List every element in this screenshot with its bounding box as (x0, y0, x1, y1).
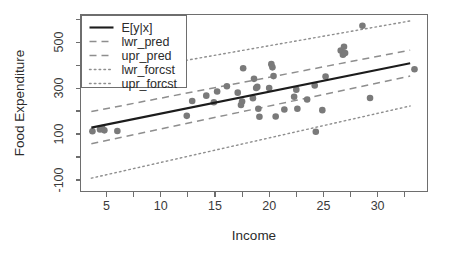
legend-label-lwr_pred: lwr_pred (122, 35, 170, 49)
regression-chart: -100100300500 51015202530 Food Expenditu… (0, 0, 449, 254)
data-point (294, 105, 301, 112)
x-axis: 51015202530 (103, 192, 405, 213)
y-tick-label: 300 (52, 78, 66, 99)
data-point (319, 107, 326, 114)
y-axis-title: Food Expenditure (12, 50, 27, 157)
data-point (214, 88, 221, 95)
data-point (359, 22, 366, 29)
data-point (251, 76, 258, 83)
data-point (189, 98, 196, 105)
data-point (341, 43, 348, 50)
data-point (281, 106, 288, 113)
data-point (255, 105, 262, 112)
x-tick-label: 30 (371, 199, 385, 213)
data-point (203, 92, 210, 99)
x-tick-label: 15 (208, 199, 222, 213)
y-axis: -100100300500 (52, 19, 80, 192)
data-point (254, 84, 261, 91)
x-tick-label: 10 (154, 199, 168, 213)
data-point (114, 128, 121, 135)
legend-label-Eyx: E[y|x] (122, 21, 153, 35)
data-point (269, 64, 276, 71)
y-tick-label: -100 (52, 167, 66, 192)
data-point (234, 89, 241, 96)
data-point (224, 83, 231, 90)
data-point (342, 50, 349, 57)
data-point (304, 96, 311, 103)
legend-label-upr_forcst: upr_forcst (122, 77, 178, 91)
y-tick-label: 100 (52, 124, 66, 145)
legend-label-lwr_forcst: lwr_forcst (122, 63, 176, 77)
data-point (239, 98, 246, 105)
series-line-lwr_forcst (91, 106, 410, 178)
data-point (270, 73, 277, 80)
chart-legend: E[y|x]lwr_predupr_predlwr_forcstupr_forc… (82, 16, 187, 92)
data-point (291, 93, 298, 100)
chart-canvas: -100100300500 51015202530 Food Expenditu… (0, 0, 449, 254)
data-point (89, 128, 96, 135)
data-point (272, 113, 279, 120)
data-point (256, 113, 263, 120)
x-axis-title: Income (232, 228, 276, 243)
data-point (313, 128, 320, 135)
data-point (367, 95, 374, 102)
x-tick-label: 25 (316, 199, 330, 213)
x-tick-label: 5 (103, 199, 110, 213)
legend-label-upr_pred: upr_pred (122, 49, 172, 63)
y-tick-label: 500 (52, 32, 66, 53)
data-point (101, 127, 108, 134)
x-tick-label: 20 (262, 199, 276, 213)
data-point (240, 65, 247, 72)
data-point (183, 113, 190, 120)
data-point (411, 66, 418, 73)
